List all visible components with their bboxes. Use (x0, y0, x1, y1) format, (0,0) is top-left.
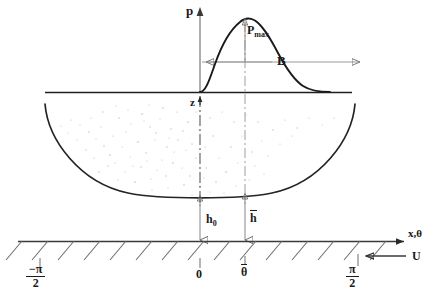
pressure-axis-label: p (186, 4, 193, 17)
z-axis-arrowhead (198, 96, 203, 102)
hbar-dimension (242, 194, 247, 241)
x-theta-axis-label: x,θ (408, 228, 422, 239)
tick-label-theta-bar: θ (241, 266, 247, 278)
pmax-subscript: max (254, 30, 269, 39)
half-pi-numerator: π (346, 263, 359, 276)
h0-subscript: 0 (213, 219, 217, 228)
minus-half-pi-numerator: −π (26, 263, 45, 276)
velocity-label: U (412, 250, 421, 262)
pressure-axis-arrowhead (197, 7, 204, 16)
ground-hatching (6, 241, 386, 260)
tick-label-minus-half-pi: −π 2 (26, 263, 45, 289)
h0-dimension (197, 196, 202, 241)
lubrication-bearing-diagram: p Pmax B z h0 h x,θ U −π 2 0 θ π 2 (0, 0, 439, 308)
h0-symbol: h (206, 212, 213, 226)
tick-label-origin: 0 (196, 268, 202, 280)
hbar-symbol: h (250, 212, 257, 224)
z-axis-label: z (190, 97, 195, 108)
h0-label: h0 (206, 213, 217, 228)
theta-bar-symbol: θ (241, 266, 247, 278)
tick-label-half-pi: π 2 (346, 263, 359, 289)
pmax-label: Pmax (247, 24, 269, 39)
hbar-label: h (250, 212, 257, 224)
bearing-width-label: B (277, 54, 286, 67)
minus-half-pi-denominator: 2 (26, 276, 45, 290)
half-pi-denominator: 2 (346, 276, 359, 290)
diagram-canvas (0, 0, 439, 308)
